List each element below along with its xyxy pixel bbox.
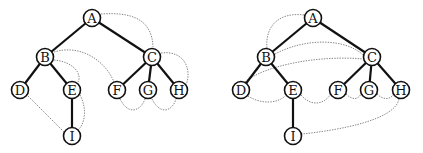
thread-left-d-i [28, 96, 64, 132]
node-label: F [112, 83, 121, 98]
left-tree-node-h: H [171, 82, 188, 99]
node-label: D [15, 83, 25, 98]
left-tree-node-g: G [140, 82, 157, 99]
node-label: A [307, 11, 318, 26]
node-label: E [67, 83, 77, 98]
left-tree-node-d: D [12, 82, 29, 99]
right-tree-node-f: F [330, 82, 347, 99]
thread-right-h-i [302, 99, 399, 134]
node-label: I [69, 129, 74, 144]
thread-right-d-e [248, 96, 285, 102]
node-label: H [173, 83, 184, 98]
left-tree-node-b: B [37, 49, 54, 66]
thread-left-c-h [161, 53, 188, 85]
left-tree-edge-a-c [92, 18, 152, 57]
left-tree-node-a: A [84, 10, 101, 27]
right-tree-node-e: E [285, 82, 302, 99]
node-label: A [86, 11, 97, 26]
thread-right-g-h [377, 94, 394, 99]
thread-left-e-i [78, 95, 84, 130]
node-label: G [143, 83, 153, 98]
node-label: I [290, 129, 295, 144]
left-tree-node-e: E [64, 82, 81, 99]
right-tree-threads [245, 15, 399, 134]
right-tree-edge-a-c [313, 18, 372, 57]
right-tree-node-h: H [393, 82, 410, 99]
thread-left-g-h [152, 99, 176, 110]
node-label: E [288, 83, 298, 98]
left-tree-node-i: I [64, 128, 81, 145]
left-tree-node-c: C [144, 49, 161, 66]
node-label: H [395, 83, 406, 98]
node-label: C [367, 50, 377, 65]
tree-edges [20, 18, 401, 136]
threaded-binary-trees: ABCDEFGHIABCDEFGHI [0, 0, 423, 153]
node-label: C [147, 50, 157, 65]
thread-right-e-f [301, 95, 330, 103]
right-tree-node-a: A [305, 10, 322, 27]
thread-left-b-f [54, 50, 114, 82]
left-tree-node-f: F [109, 82, 126, 99]
right-tree-node-g: G [361, 82, 378, 99]
node-label: F [333, 83, 342, 98]
node-label: D [236, 83, 246, 98]
node-label: B [40, 50, 50, 65]
thread-right-f-g [346, 94, 361, 99]
thread-left-f-g [120, 99, 145, 110]
right-tree-node-b: B [258, 49, 275, 66]
node-label: B [261, 50, 271, 65]
node-label: G [364, 83, 374, 98]
right-tree-node-i: I [285, 128, 302, 145]
right-tree-node-d: D [233, 82, 250, 99]
right-tree-node-c: C [364, 49, 381, 66]
thread-right-b-c [275, 42, 363, 55]
